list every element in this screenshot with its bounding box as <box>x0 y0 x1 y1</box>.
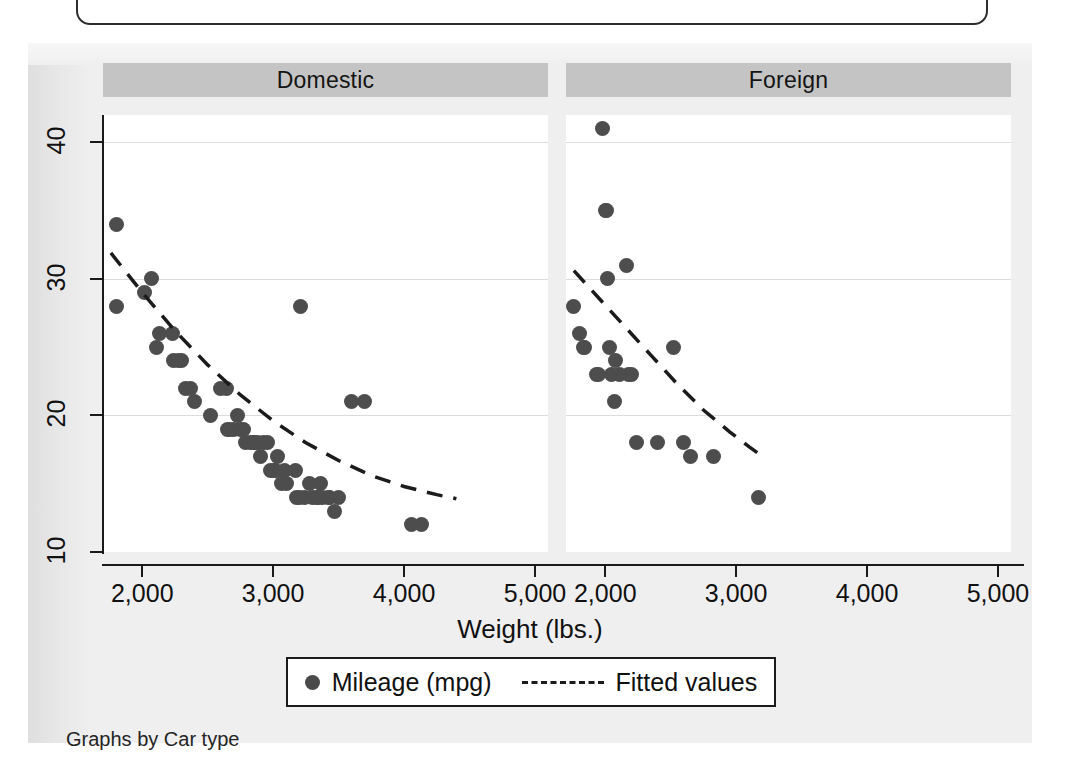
x-tick-label-domestic-2000: 2,000 <box>82 579 202 608</box>
y-tick-30 <box>90 278 103 280</box>
plot-area-domestic <box>103 115 548 552</box>
legend-label-fitted: Fitted values <box>616 668 758 697</box>
fitted-values-line <box>103 115 548 552</box>
y-tick-label-20: 20 <box>42 389 71 439</box>
chart-figure: Domestic Foreign 102030402,0003,0004,000… <box>28 43 1032 743</box>
x-tick-foreign-3000 <box>735 564 737 577</box>
x-tick-foreign-5000 <box>997 564 999 577</box>
legend-entry-mileage: Mileage (mpg) <box>305 668 492 697</box>
x-tick-label-foreign-3000: 3,000 <box>676 579 796 608</box>
page-root: Domestic Foreign 102030402,0003,0004,000… <box>0 0 1073 783</box>
x-tick-domestic-4000 <box>403 564 405 577</box>
dashed-line-icon <box>522 681 604 684</box>
scanned-box-border <box>76 0 988 25</box>
y-tick-label-40: 40 <box>42 116 71 166</box>
y-tick-20 <box>90 414 103 416</box>
x-tick-domestic-3000 <box>272 564 274 577</box>
fitted-values-line <box>566 115 1011 552</box>
legend-label-mileage: Mileage (mpg) <box>332 668 492 697</box>
panel-header-foreign: Foreign <box>566 63 1011 97</box>
x-tick-label-foreign-4000: 4,000 <box>807 579 927 608</box>
x-tick-label-foreign-2000: 2,000 <box>545 579 665 608</box>
legend-entry-fitted: Fitted values <box>522 668 758 697</box>
circle-marker-icon <box>305 675 320 690</box>
panel-header-domestic: Domestic <box>103 63 548 97</box>
chart-legend: Mileage (mpg) Fitted values <box>286 657 776 707</box>
x-tick-domestic-2000 <box>141 564 143 577</box>
x-axis-line-foreign <box>554 564 1024 566</box>
y-tick-label-10: 10 <box>42 526 71 576</box>
x-tick-domestic-5000 <box>534 564 536 577</box>
chart-caption: Graphs by Car type <box>66 728 239 751</box>
x-axis-title: Weight (lbs.) <box>28 614 1032 645</box>
x-tick-foreign-4000 <box>866 564 868 577</box>
x-tick-label-domestic-3000: 3,000 <box>213 579 333 608</box>
plot-area-foreign <box>566 115 1011 552</box>
y-tick-40 <box>90 141 103 143</box>
y-tick-10 <box>90 551 103 553</box>
x-tick-label-domestic-4000: 4,000 <box>344 579 464 608</box>
y-axis-line <box>102 115 104 554</box>
y-tick-label-30: 30 <box>42 252 71 302</box>
x-axis-line-domestic <box>102 564 561 566</box>
x-tick-label-foreign-5000: 5,000 <box>938 579 1058 608</box>
x-tick-foreign-2000 <box>604 564 606 577</box>
